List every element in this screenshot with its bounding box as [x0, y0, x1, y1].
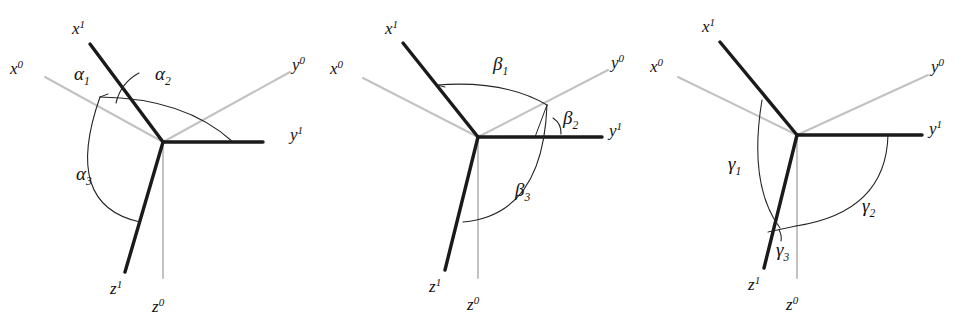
gamma-panel: x1 x0 y0 y1 z1 z0 γ1 γ2: [650, 0, 975, 327]
figure-root: x1 x0 y0 y1 z1 z0 α1 α2: [0, 0, 975, 327]
beta-2-leg: [535, 105, 547, 137]
y0-axis-line: [163, 72, 290, 142]
alpha-1-label: α1: [74, 63, 90, 87]
gamma-1-arc: [758, 100, 780, 228]
z1-axis-label: z1: [747, 274, 760, 294]
x1-axis-label: x1: [701, 16, 715, 36]
alpha-3-label: α3: [76, 163, 92, 187]
z1-axis-label: z1: [428, 276, 441, 296]
y1-axis-label: y1: [607, 120, 622, 140]
z1-axis-line: [445, 137, 478, 270]
gamma-1-label: γ1: [728, 153, 741, 177]
y0-axis-label: y0: [609, 52, 625, 72]
alpha-panel: x1 x0 y0 y1 z1 z0 α1 α2: [0, 0, 325, 327]
z1-axis-label: z1: [109, 278, 122, 298]
y0-axis-label: y0: [929, 56, 945, 76]
gamma-diagram: x1 x0 y0 y1 z1 z0 γ1 γ2: [650, 0, 975, 327]
gamma-3-label: γ3: [776, 239, 790, 263]
beta-panel: x1 x0 y0 y1 z1 z0 β1 β2: [325, 0, 650, 327]
alpha-2-label: α2: [155, 63, 171, 87]
alpha-2-arc: [100, 97, 233, 142]
z1-axis-line: [125, 142, 163, 272]
x0-axis-line: [678, 77, 797, 135]
y1-axis-label: y1: [927, 118, 942, 138]
alpha-diagram: x1 x0 y0 y1 z1 z0 α1 α2: [0, 0, 325, 327]
x0-axis-label: x0: [650, 56, 664, 76]
x1-axis-label: x1: [384, 18, 398, 38]
x0-axis-line: [363, 78, 478, 137]
x0-axis-line: [45, 77, 163, 142]
y1-axis-label: y1: [288, 124, 303, 144]
gamma-2-label: γ2: [862, 195, 876, 219]
x1-axis-line: [720, 42, 797, 135]
x0-axis-label: x0: [329, 58, 344, 78]
z0-axis-label: z0: [466, 294, 480, 314]
x0-axis-label: x0: [9, 58, 24, 78]
y0-axis-label: y0: [290, 54, 306, 74]
beta-1-label: β1: [492, 53, 508, 77]
beta-2-arc: [553, 118, 561, 134]
beta-1-arc: [437, 84, 547, 105]
beta-2-label: β2: [562, 107, 578, 131]
z0-axis-label: z0: [785, 294, 799, 314]
y0-axis-line: [478, 70, 608, 137]
beta-diagram: x1 x0 y0 y1 z1 z0 β1 β2: [325, 0, 650, 327]
x1-axis-line: [90, 44, 163, 142]
z0-axis-label: z0: [151, 296, 165, 316]
x1-axis-label: x1: [71, 18, 85, 38]
y0-axis-line: [797, 75, 928, 135]
x1-axis-line: [403, 43, 478, 137]
